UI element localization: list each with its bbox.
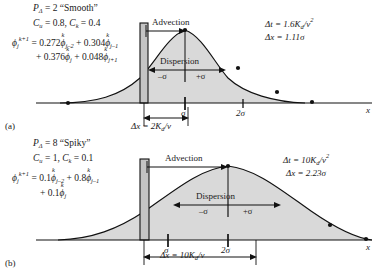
delta-t-label-b: Δt = 10Kd/v2 — [283, 153, 329, 167]
delta-x-label-a: Δx = 1.11σ — [265, 33, 304, 42]
x-axis-label-a: x — [366, 106, 370, 115]
delta-x-bottom-label-a: Δx = 2Kd/v — [131, 122, 171, 133]
advection-label-a: Advection — [152, 18, 190, 27]
data-marker — [364, 237, 368, 241]
initial-spike-b — [140, 159, 149, 240]
advection-label-b: Advection — [165, 154, 203, 163]
scheme-equation-line2-b: + 0.1kϕj — [40, 189, 66, 200]
sigma-plus-label-b: +σ — [243, 207, 252, 216]
courant-label-b: Cu = 1, Ck = 0.1 — [33, 154, 93, 165]
panel-label-a: (a) — [5, 122, 15, 131]
data-marker — [275, 90, 279, 94]
scheme-equation-line2-a: + 0.376kϕj + 0.048kϕj+1 — [36, 53, 118, 64]
tick-label-2sigma-b: 2σ — [221, 246, 230, 255]
courant-label-a: Cu = 0.8, Ck = 0.4 — [33, 19, 100, 30]
delta-t-label-a: Δt = 1.6Kd/v2 — [265, 17, 314, 31]
data-marker — [328, 223, 332, 227]
delta-x-bottom-label-b: Δx = 10Kd/v — [160, 251, 205, 262]
delta-x-label-b: Δx = 2.23σ — [286, 169, 326, 178]
initial-spike-a — [140, 23, 148, 103]
data-marker — [236, 66, 240, 70]
scheme-equation-line1-a: ϕjk+1 = 0.272kϕj–2 + 0.304kϕj–1 — [12, 36, 118, 50]
panel-a: PΔ = 2 “Smooth” Cu = 0.8, Ck = 0.4 ϕjk+1… — [0, 0, 387, 137]
dispersion-label-a: Dispersion — [160, 57, 199, 66]
dispersion-label-b: Dispersion — [196, 192, 235, 201]
data-marker — [66, 101, 70, 105]
tick-label-sigma-a: σ — [181, 109, 185, 118]
sigma-plus-label-a: +σ — [196, 72, 205, 81]
scheme-equation-line1-b: ϕjk+1 = 0.1kϕj–2 + 0.8kϕj–1 — [12, 171, 99, 185]
sigma-minus-label-a: –σ — [158, 72, 167, 81]
panel-label-b: (b) — [5, 259, 16, 268]
peclet-label-a: PΔ = 2 “Smooth” — [33, 4, 98, 15]
sigma-minus-label-b: –σ — [199, 207, 208, 216]
data-marker — [310, 100, 314, 104]
tick-label-2sigma-a: 2σ — [236, 109, 245, 118]
x-axis-label-b: x — [366, 243, 370, 252]
panel-b: PΔ = 8 “Spiky” Cu = 1, Ck = 0.1 ϕjk+1 = … — [0, 137, 387, 274]
peclet-label-b: PΔ = 8 “Spiky” — [33, 139, 90, 150]
